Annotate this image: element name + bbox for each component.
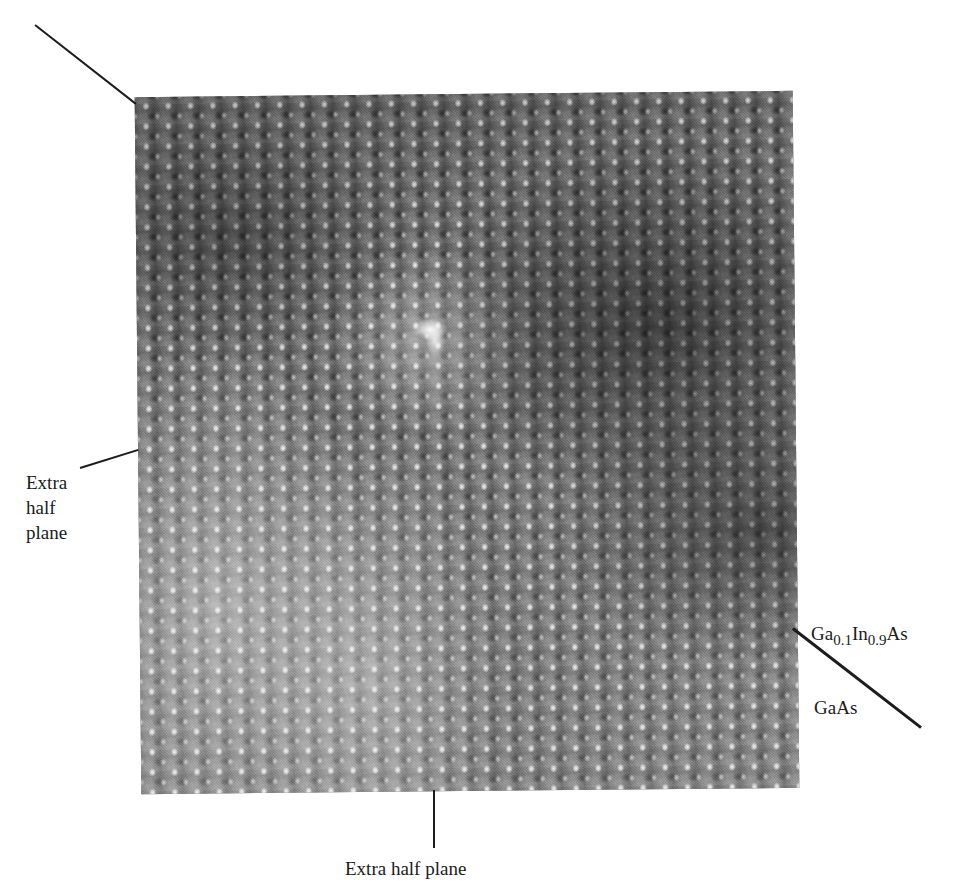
label-upper-layer-composition: Ga0.1In0.9As: [811, 621, 908, 653]
label-extra-half-plane-left: Extrahalfplane: [26, 470, 67, 545]
figure-root: Extrahalfplane Extra half plane Ga0.1In0…: [0, 0, 967, 896]
element-indium: In: [852, 623, 868, 644]
label-extra-half-plane-left-line1: Extra: [26, 472, 67, 493]
micrograph-edge-vignette: [135, 91, 800, 794]
leader-line-extra-half-plane-top: [34, 24, 136, 105]
element-gallium: Ga: [811, 623, 833, 644]
subscript-gallium-fraction: 0.1: [833, 632, 852, 648]
label-extra-half-plane-bottom: Extra half plane: [345, 856, 466, 881]
label-extra-half-plane-left-line3: plane: [26, 522, 67, 543]
subscript-indium-fraction: 0.9: [868, 632, 887, 648]
label-extra-half-plane-left-line2: half: [26, 497, 56, 518]
hrtem-micrograph: [135, 91, 800, 794]
element-arsenic: As: [886, 623, 907, 644]
leader-line-extra-half-plane-bottom: [433, 790, 435, 848]
leader-line-extra-half-plane-left: [80, 449, 139, 469]
label-lower-layer-composition: GaAs: [814, 695, 857, 720]
